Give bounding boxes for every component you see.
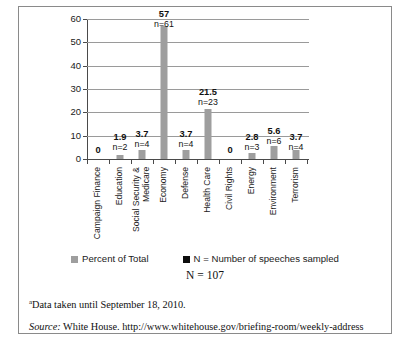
y-tick-label-10: 10 [55,131,81,141]
bar-value-defense: 3.7 [166,129,206,139]
x-tick-mark [307,159,308,164]
gridline-20 [87,112,309,113]
x-axis-line [87,159,309,160]
gridline-60 [87,19,309,20]
bar-chart: 60 50 40 30 20 10 0 [19,7,391,279]
x-label-defense: Defense [181,167,191,199]
x-tick-mark [241,159,242,164]
legend-item-percent-of-total: Percent of Total [71,253,149,265]
legend-label-n-speeches: N = Number of speeches sampled [194,253,339,264]
gridline-50 [87,42,309,43]
bar-count-defense: n=4 [166,139,206,149]
legend-label-percent-of-total: Percent of Total [82,253,149,264]
legend-item-n-speeches: N = Number of speeches sampled [183,253,339,265]
y-tick-label-0: 0 [55,154,81,164]
gridline-40 [87,66,309,67]
legend-swatch-black-icon [183,256,190,263]
source-label: Source: [29,321,61,332]
source-text: White House. http://www.whitehouse.gov/b… [63,321,363,332]
x-tick-mark [109,159,110,164]
bar-value-health-care: 21.5 [188,87,228,97]
bar-label-defense: 3.7 n=4 [166,129,206,149]
footnote-text: Data taken until September 18, 2010. [32,299,186,310]
y-tick-label-20: 20 [55,108,81,118]
figure-notes: aData taken until September 18, 2010. So… [29,295,381,342]
x-tick-mark [219,159,220,164]
bar-label-economy: 57 n=61 [144,9,184,29]
footnote-line: aData taken until September 18, 2010. [29,295,381,312]
x-tick-mark [87,159,88,164]
plot-area: 0 1.9 n=2 3.7 n=4 57 n=61 3.7 n=4 21.5 n… [87,19,309,159]
x-label-health-care: Health Care [203,167,213,213]
bar-value-social-security: 3.7 [122,129,162,139]
x-label-education: Education [115,167,125,205]
bar-label-terrorism: 3.7 n=4 [276,132,316,152]
source-line: Source: White House. http://www.whitehou… [29,320,381,334]
x-tick-mark [197,159,198,164]
bar-label-health-care: 21.5 n=23 [188,87,228,107]
bar-value-terrorism: 3.7 [276,132,316,142]
total-n-label: N = 107 [19,269,391,281]
bar-defense [183,150,190,159]
y-tick-label-50: 50 [55,38,81,48]
x-tick-mark [175,159,176,164]
x-label-civil-rights: Civil Rights [225,167,235,210]
bar-value-economy: 57 [144,9,184,19]
x-label-environment: Environment [269,167,279,215]
y-tick-label-60: 60 [55,14,81,24]
legend-swatch-grey-icon [71,256,78,263]
bar-count-social-security: n=4 [122,139,162,149]
y-tick-label-30: 30 [55,84,81,94]
chart-legend: Percent of Total N = Number of speeches … [19,253,391,265]
x-tick-mark [285,159,286,164]
x-label-campaign-finance: Campaign Finance [93,167,103,239]
y-tick-label-40: 40 [55,61,81,71]
bar-count-terrorism: n=4 [276,142,316,152]
x-label-economy: Economy [159,167,169,203]
bar-count-health-care: n=23 [188,97,228,107]
x-label-social-security: Social Security & Medicare [132,167,152,239]
x-label-energy: Energy [247,167,257,194]
x-tick-mark [153,159,154,164]
figure-container: 60 50 40 30 20 10 0 [18,6,392,334]
bar-count-economy: n=61 [144,19,184,29]
bar-label-social-security: 3.7 n=4 [122,129,162,149]
x-tick-mark [263,159,264,164]
x-tick-mark [131,159,132,164]
x-label-terrorism: Terrorism [291,167,301,203]
